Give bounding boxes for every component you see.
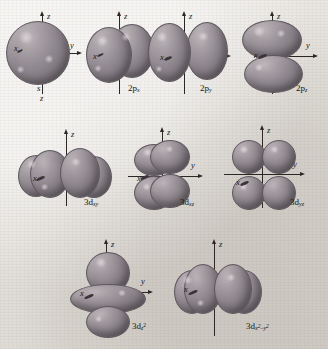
- axis-label-z: z: [71, 130, 74, 139]
- orbital-label-base: 3d: [246, 321, 255, 331]
- axis-label-z: z: [189, 12, 192, 21]
- axis-label-z-top: z: [47, 12, 50, 21]
- orbital-lobe: [244, 55, 303, 93]
- axis-label-x: x: [184, 285, 188, 294]
- orbital-label-sub: xy: [93, 201, 98, 207]
- axis-z-arrowhead: [182, 11, 186, 16]
- axis-label-z: z: [267, 126, 270, 135]
- orbital-label-sub: x2–y2: [255, 325, 269, 331]
- axis-z-arrowhead: [260, 125, 264, 130]
- axis-y-arrowhead: [148, 290, 153, 294]
- orbital-label-base: 3d: [290, 197, 299, 207]
- orbital-shapes-figure: z y x z s z y x 2px z: [0, 0, 328, 349]
- axis-label-z: z: [219, 240, 222, 249]
- axis-label-y: y: [306, 41, 310, 50]
- axis-y-arrowhead: [313, 54, 318, 58]
- orbital-lobe: [214, 264, 252, 314]
- orbital-label-2px: 2px: [128, 84, 140, 93]
- orbital-lobe: [242, 20, 302, 60]
- orbital-label-text: s: [37, 83, 41, 93]
- axis-label-x: x: [14, 44, 18, 53]
- orbital-panel-s: z y x z s: [4, 8, 84, 106]
- axis-label-y: y: [191, 161, 195, 170]
- axis-y-arrowhead: [77, 51, 82, 55]
- orbital-label-base: 3d: [180, 197, 189, 207]
- orbital-label-base: 3d: [132, 321, 141, 331]
- axis-label-z-bottom: z: [40, 94, 43, 103]
- orbital-lobe-bottom: [86, 306, 130, 338]
- axis-z-arrowhead: [212, 239, 216, 244]
- orbital-panel-2pz: z y x 2pz: [234, 8, 326, 106]
- orbital-panel-3dz2: z y x 3dz2: [62, 236, 166, 340]
- axis-z-arrowhead: [160, 127, 164, 132]
- axis-label-x: x: [160, 53, 164, 62]
- axis-label-x: x: [254, 51, 258, 60]
- orbital-label-3dx2y2: 3dx2–y2: [246, 322, 269, 331]
- orbital-lobe: [262, 140, 296, 174]
- axis-z-arrowhead: [270, 11, 274, 16]
- orbital-label-3dxz: 3dxz: [180, 198, 194, 207]
- axis-label-z: z: [277, 12, 280, 21]
- orbital-label-sub: xz: [189, 201, 194, 207]
- orbital-panel-3dx2y2: z y x 3dx2–y2: [170, 236, 278, 340]
- orbital-panel-3dxz: z y x 3dxz: [118, 124, 216, 222]
- axis-label-x: x: [93, 52, 97, 61]
- orbital-label-3dz2: 3dz2: [132, 322, 146, 331]
- orbital-label-base: 2p: [128, 83, 137, 93]
- axis-y-arrowhead: [300, 172, 305, 176]
- axis-y: [224, 174, 302, 175]
- orbital-label-sub: y: [209, 87, 212, 93]
- axis-label-y: y: [70, 41, 74, 50]
- orbital-panel-3dxy: z y x 3dxy: [14, 124, 118, 222]
- axis-label-x: x: [137, 174, 141, 183]
- orbital-lobe: [186, 22, 228, 80]
- axis-z-arrowhead: [64, 129, 68, 134]
- orbital-label-2pz: 2pz: [296, 84, 307, 93]
- orbital-lobe: [148, 23, 191, 82]
- orbital-panel-3dyz: z y x 3dyz: [216, 124, 324, 222]
- axis-label-z: z: [124, 12, 127, 21]
- orbital-label-sub: yz: [299, 201, 304, 207]
- orbital-label-s: s: [37, 84, 41, 93]
- orbital-lobe: [60, 148, 100, 198]
- axis-z-arrowhead: [104, 239, 108, 244]
- orbital-lobe: [232, 140, 266, 174]
- axis-label-x: x: [80, 289, 84, 298]
- axis-z-arrowhead: [40, 11, 44, 16]
- orbital-label-3dxy: 3dxy: [84, 198, 98, 207]
- axis-label-z: z: [111, 240, 114, 249]
- orbital-lobe: [6, 21, 70, 85]
- axis-label-x: x: [236, 178, 240, 187]
- orbital-label-2py: 2py: [200, 84, 212, 93]
- orbital-label-base: 3d: [84, 197, 93, 207]
- orbital-label-3dyz: 3dyz: [290, 198, 304, 207]
- orbital-label-sub: z: [305, 87, 307, 93]
- orbital-panel-2py: z y x 2py: [148, 8, 238, 106]
- orbital-label-base: 2p: [296, 83, 305, 93]
- orbital-lobe: [150, 140, 190, 174]
- axis-label-y: y: [141, 277, 145, 286]
- orbital-label-base: 2p: [200, 83, 209, 93]
- axis-y-arrowhead: [198, 174, 203, 178]
- orbital-label-sup: 2: [143, 322, 146, 328]
- axis-label-x: x: [33, 174, 37, 183]
- axis-z-arrowhead: [117, 11, 121, 16]
- axis-label-z: z: [167, 128, 170, 137]
- orbital-label-sub: x: [137, 87, 140, 93]
